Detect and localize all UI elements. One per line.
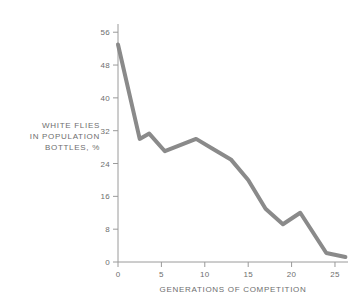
x-tick-label: 5 <box>159 270 164 279</box>
data-series-group <box>118 45 345 258</box>
y-tick-label: 56 <box>101 28 111 37</box>
x-tick-label: 15 <box>243 270 253 279</box>
y-tick-label: 16 <box>101 192 111 201</box>
y-axis-ticks: 08162432404856 <box>101 28 119 267</box>
x-tick-label: 20 <box>287 270 297 279</box>
data-line-series <box>118 45 345 258</box>
y-tick-label: 24 <box>101 160 111 169</box>
y-tick-label: 32 <box>101 127 111 136</box>
axes <box>118 24 348 262</box>
line-chart-plot: 08162432404856 0510152025 GENERATIONS OF… <box>0 0 362 301</box>
x-tick-label: 0 <box>116 270 121 279</box>
x-axis-title: GENERATIONS OF COMPETITION <box>160 285 307 294</box>
x-tick-label: 10 <box>200 270 210 279</box>
y-tick-label: 40 <box>101 94 111 103</box>
x-axis-ticks: 0510152025 <box>116 262 340 279</box>
y-tick-label: 48 <box>101 61 111 70</box>
chart-figure: WHITE FLIES IN POPULATION BOTTLES, % 081… <box>0 0 362 301</box>
y-tick-label: 0 <box>105 258 110 267</box>
y-tick-label: 8 <box>105 225 110 234</box>
x-tick-label: 25 <box>330 270 340 279</box>
